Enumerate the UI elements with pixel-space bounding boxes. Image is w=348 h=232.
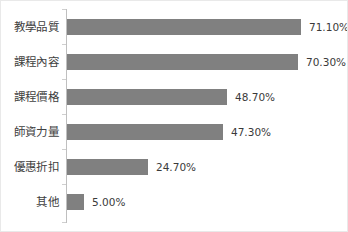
bar-wrap: 24.70% [67, 149, 196, 184]
bar-row: 其他 5.00% [1, 184, 348, 219]
bar-segment[interactable] [67, 159, 148, 175]
bar-row: 優惠折扣 24.70% [1, 149, 348, 184]
bar-wrap: 47.30% [67, 114, 271, 149]
bar-wrap: 5.00% [67, 184, 125, 219]
category-label: 教學品質 [1, 20, 59, 34]
bar-row: 師資力量 47.30% [1, 114, 348, 149]
bar-value-label: 70.30% [306, 55, 346, 69]
bar-value-label: 24.70% [156, 160, 196, 174]
bar-segment[interactable] [67, 89, 227, 105]
bar-segment[interactable] [67, 124, 223, 140]
bar-row: 課程價格 48.70% [1, 79, 348, 114]
plot-area: 教學品質 71.10% 課程內容 70.30% 課程價格 48.70% 師資力量 [1, 1, 348, 232]
bar-wrap: 71.10% [67, 9, 348, 44]
category-label: 師資力量 [1, 125, 59, 139]
bar-value-label: 48.70% [235, 90, 275, 104]
bar-segment[interactable] [67, 194, 84, 210]
bar-row: 教學品質 71.10% [1, 9, 348, 44]
bar-value-label: 5.00% [92, 195, 125, 209]
bar-row: 課程內容 70.30% [1, 44, 348, 79]
bar-wrap: 70.30% [67, 44, 346, 79]
bar-segment[interactable] [67, 54, 298, 70]
bar-value-label: 71.10% [309, 20, 348, 34]
category-label: 其他 [1, 195, 59, 209]
bar-value-label: 47.30% [231, 125, 271, 139]
bar-segment[interactable] [67, 19, 301, 35]
axis-tick [62, 222, 66, 223]
category-label: 課程內容 [1, 55, 59, 69]
bar-wrap: 48.70% [67, 79, 275, 114]
category-label: 優惠折扣 [1, 160, 59, 174]
bar-chart: 教學品質 71.10% 課程內容 70.30% 課程價格 48.70% 師資力量 [0, 0, 348, 232]
category-label: 課程價格 [1, 90, 59, 104]
